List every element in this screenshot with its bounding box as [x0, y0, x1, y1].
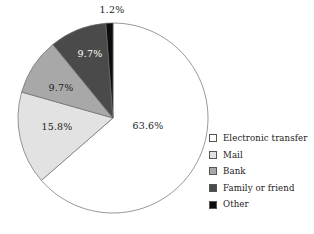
legend-swatch-icon [209, 134, 217, 142]
legend-swatch-icon [209, 184, 217, 192]
legend-swatch-icon [209, 201, 217, 209]
legend-item-label: Other [223, 200, 249, 209]
pie-chart-figure: 63.6%15.8%9.7%9.7%1.2% Electronic transf… [0, 0, 314, 234]
chart-legend: Electronic transferMailBankFamily or fri… [209, 130, 314, 213]
pie-slice-value-label: 15.8% [41, 121, 72, 132]
legend-item[interactable]: Bank [209, 163, 314, 180]
pie-slice-value-label: 9.7% [78, 48, 103, 59]
legend-item[interactable]: Other [209, 196, 314, 213]
legend-item[interactable]: Family or friend [209, 180, 314, 197]
legend-item[interactable]: Mail [209, 147, 314, 164]
legend-swatch-icon [209, 151, 217, 159]
pie-slice-value-label: 63.6% [132, 120, 163, 131]
legend-swatch-icon [209, 167, 217, 175]
legend-item[interactable]: Electronic transfer [209, 130, 314, 147]
legend-item-label: Bank [223, 167, 246, 176]
pie-slice-value-label: 1.2% [100, 4, 125, 15]
legend-item-label: Mail [223, 151, 243, 160]
legend-item-label: Electronic transfer [223, 134, 307, 143]
pie-slices [18, 23, 208, 213]
pie-slice-value-label: 9.7% [49, 82, 74, 93]
legend-item-label: Family or friend [223, 184, 295, 193]
